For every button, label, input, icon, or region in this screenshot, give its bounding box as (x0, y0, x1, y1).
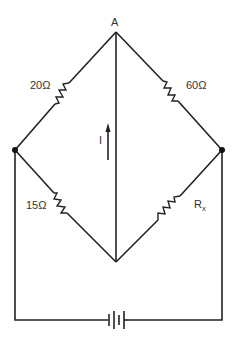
node-label-a: A (111, 17, 118, 28)
left-node-dot (12, 147, 18, 153)
resistor-top-left (15, 32, 116, 150)
battery-icon (109, 311, 128, 329)
current-label: I (99, 135, 102, 146)
wheatstone-bridge-diagram: A 20Ω 60Ω 15Ω Rx I (0, 0, 237, 341)
left-outer-wire (15, 150, 108, 320)
rx-main: R (194, 198, 202, 210)
resistor-label-rx: Rx (194, 199, 206, 213)
current-arrow-icon (106, 123, 111, 160)
resistor-bottom-right (116, 150, 222, 262)
rx-subscript: x (202, 204, 206, 213)
resistor-label-15: 15Ω (26, 200, 46, 211)
resistor-label-20: 20Ω (30, 80, 50, 91)
resistor-top-right (116, 32, 222, 150)
resistor-label-60: 60Ω (186, 80, 206, 91)
circuit-drawing (0, 0, 237, 341)
right-node-dot (219, 147, 225, 153)
